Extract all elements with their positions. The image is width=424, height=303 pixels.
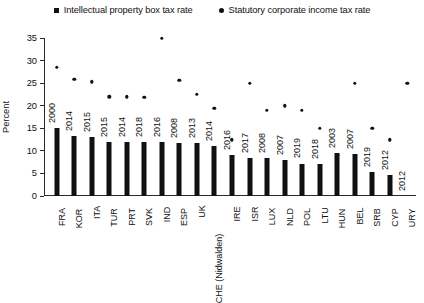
- point-year-label: 2015: [99, 117, 109, 137]
- point-year-label: 2014: [64, 111, 74, 131]
- x-axis-category-label: URY: [407, 208, 417, 227]
- point-year-label: 2003: [327, 128, 337, 148]
- bar-ip-box-rate: [142, 142, 147, 196]
- chart-column: 2015TUR: [101, 38, 119, 196]
- point-statutory-rate: [55, 65, 58, 68]
- point-year-label: 2013: [187, 118, 197, 138]
- chart-column: 2014PRT: [118, 38, 136, 196]
- y-axis-tick-label: 10: [21, 146, 37, 156]
- chart-column: 2007NLD: [276, 38, 294, 196]
- point-statutory-rate: [125, 95, 128, 98]
- x-axis-category-label: LTU: [320, 207, 330, 223]
- point-statutory-rate: [108, 95, 111, 98]
- point-year-label: 2019: [292, 138, 302, 158]
- point-year-label: 2000: [47, 103, 57, 123]
- chart-column: 2012CYP: [381, 38, 399, 196]
- circle-marker-icon: [219, 8, 224, 13]
- legend-label-statutory: Statutory corporate income tax rate: [229, 5, 371, 15]
- point-statutory-rate: [265, 109, 268, 112]
- chart-column: 2014CHE (Nidwalden): [206, 38, 224, 196]
- point-statutory-rate: [195, 92, 198, 95]
- bar-ip-box-rate: [247, 158, 252, 196]
- bar-ip-box-rate: [317, 164, 322, 196]
- point-year-label: 2008: [257, 133, 267, 153]
- point-statutory-rate: [143, 95, 146, 98]
- x-axis-category-label: HUN: [337, 209, 347, 229]
- chart-column: 2007BEL: [346, 38, 364, 196]
- bar-ip-box-rate: [212, 146, 217, 196]
- bar-ip-box-rate: [387, 175, 392, 196]
- x-axis-category-label: UK: [197, 205, 207, 218]
- chart-column: 2008ESP: [171, 38, 189, 196]
- y-axis-tick-mark: [40, 38, 44, 39]
- y-axis-tick: 5: [21, 168, 44, 178]
- chart-legend: Intellectual property box tax rate Statu…: [0, 5, 424, 15]
- point-statutory-rate: [248, 81, 251, 84]
- bar-ip-box-rate: [72, 136, 77, 196]
- y-axis-tick: 20: [21, 101, 44, 111]
- point-year-label: 2019: [362, 147, 372, 167]
- chart-column: 2003HUN: [328, 38, 346, 196]
- bar-ip-box-rate: [352, 154, 357, 196]
- x-axis-category-label: PRT: [127, 208, 137, 226]
- point-year-label: 2015: [82, 112, 92, 132]
- plot-area: Percent 05101520253035 2000FRA2014KOR201…: [44, 38, 416, 196]
- x-axis-category-label: POL: [302, 208, 312, 226]
- bar-ip-box-rate: [282, 160, 287, 196]
- bar-ip-box-rate: [300, 164, 305, 197]
- bar-ip-box-rate: [370, 172, 375, 196]
- point-statutory-rate: [178, 78, 181, 81]
- point-statutory-rate: [353, 81, 356, 84]
- y-axis-tick-mark: [40, 150, 44, 151]
- point-statutory-rate: [90, 80, 93, 83]
- point-statutory-rate: [300, 109, 303, 112]
- y-axis-tick-label: 35: [21, 33, 37, 43]
- y-axis-tick-label: 0: [21, 191, 37, 201]
- chart-column: 2018SVK: [136, 38, 154, 196]
- point-year-label: 2018: [134, 117, 144, 137]
- y-axis-line: [44, 38, 45, 196]
- chart-column: 2013UK: [188, 38, 206, 196]
- chart-column: 2016IRE: [223, 38, 241, 196]
- point-statutory-rate: [388, 138, 391, 141]
- y-axis-tick-mark: [40, 105, 44, 106]
- y-axis-tick-mark: [40, 60, 44, 61]
- chart-column: 2017ISR: [241, 38, 259, 196]
- bar-ip-box-rate: [265, 158, 270, 196]
- point-statutory-rate: [406, 81, 409, 84]
- x-axis-category-label: LUX: [267, 208, 277, 226]
- y-axis-tick: 30: [21, 56, 44, 66]
- y-axis-tick: 15: [21, 123, 44, 133]
- point-year-label: 2017: [240, 133, 250, 153]
- y-axis-title: Percent: [1, 101, 11, 133]
- y-axis-tick-mark: [40, 128, 44, 129]
- legend-label-ip-box: Intellectual property box tax rate: [64, 5, 193, 15]
- x-axis-category-label: CYP: [390, 208, 400, 227]
- x-axis-category-label: TUR: [109, 208, 119, 227]
- x-axis-category-label: ISR: [250, 207, 260, 222]
- x-axis-category-label: SVK: [144, 208, 154, 226]
- chart-column: 2012URY: [398, 38, 416, 196]
- point-year-label: 2012: [397, 171, 407, 191]
- legend-item-ip-box: Intellectual property box tax rate: [54, 5, 193, 15]
- point-statutory-rate: [213, 106, 216, 109]
- y-axis-tick: 35: [21, 33, 44, 43]
- point-year-label: 2014: [117, 117, 127, 137]
- y-axis-tick-mark: [40, 196, 44, 197]
- chart-column: 2015ITA: [83, 38, 101, 196]
- x-axis-category-label: BEL: [355, 208, 365, 225]
- x-axis-category-label: FRA: [57, 208, 67, 226]
- y-axis-tick: 25: [21, 78, 44, 88]
- bar-ip-box-rate: [124, 142, 129, 196]
- point-statutory-rate: [73, 77, 76, 80]
- x-axis-category-label: ESP: [179, 208, 189, 226]
- chart-column: 2019POL: [293, 38, 311, 196]
- x-axis-category-label: KOR: [74, 209, 84, 229]
- y-axis-tick-mark: [40, 83, 44, 84]
- y-axis-tick: 10: [21, 146, 44, 156]
- point-year-label: 2014: [204, 121, 214, 141]
- chart-column: 2000FRA: [48, 38, 66, 196]
- x-axis-category-label: SRB: [372, 208, 382, 227]
- y-axis-tick-label: 15: [21, 123, 37, 133]
- point-year-label: 2016: [222, 130, 232, 150]
